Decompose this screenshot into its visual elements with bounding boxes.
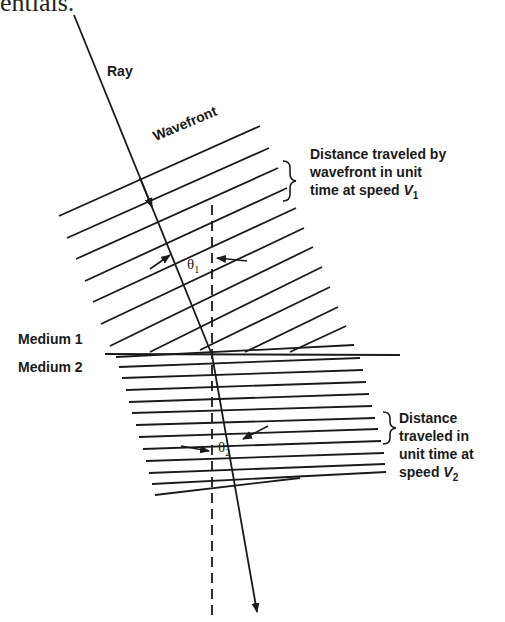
ray-label: Ray	[107, 63, 133, 80]
medium-1-label: Medium 1	[18, 331, 83, 348]
annotation-v2-line2: traveled in	[399, 428, 469, 445]
annotation-v2-line3: unit time at	[399, 446, 474, 463]
brace-v1	[283, 161, 296, 201]
annotation-v1-line2: wavefront in unit	[310, 164, 422, 181]
annotation-v1-line1: Distance traveled by	[310, 146, 446, 163]
annotation-v2-line1: Distance	[399, 410, 457, 427]
wavefronts-medium-1	[59, 126, 346, 352]
wavefronts-medium-2	[116, 345, 386, 495]
diagram-graphics	[0, 0, 505, 622]
medium-2-label: Medium 2	[18, 359, 83, 376]
annotation-v2-line4: speed V2	[399, 464, 458, 486]
theta1-arrow-right	[217, 258, 247, 261]
theta2-label: θ2	[218, 439, 230, 458]
theta1-label: θ1	[187, 256, 199, 275]
brace-v2	[383, 412, 396, 444]
refraction-diagram: entials.	[0, 0, 505, 622]
annotation-v1-line3: time at speed V1	[310, 182, 418, 204]
